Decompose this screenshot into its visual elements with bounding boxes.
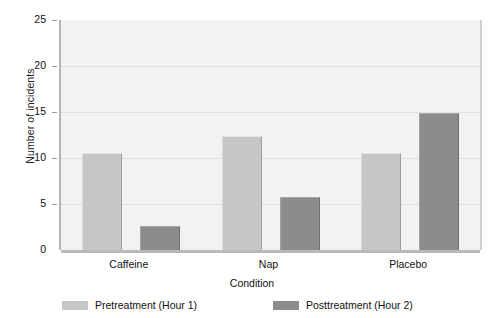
y-tick-label: 20 [18, 60, 46, 71]
x-axis-baseline [61, 250, 480, 253]
y-tick-label: 10 [18, 152, 46, 163]
x-tick-label: Placebo [339, 258, 477, 270]
bar [280, 197, 320, 250]
gridline [61, 158, 480, 159]
y-tick-mark [52, 158, 57, 159]
gridline [61, 112, 480, 113]
bar [222, 136, 262, 250]
y-tick-label: 0 [18, 244, 46, 255]
legend-label: Posttreatment (Hour 2) [306, 299, 413, 311]
legend-entry[interactable]: Pretreatment (Hour 1) [62, 297, 197, 313]
plot-area [59, 20, 480, 250]
legend-swatch [62, 301, 88, 310]
y-tick-label: 5 [18, 198, 46, 209]
plot-inner [61, 20, 480, 250]
chart-legend: Pretreatment (Hour 1)Posttreatment (Hour… [0, 297, 504, 318]
legend-entry[interactable]: Posttreatment (Hour 2) [273, 297, 413, 313]
y-tick-label: 15 [18, 106, 46, 117]
y-tick-mark [52, 112, 57, 113]
gridline [61, 204, 480, 205]
x-tick-label: Caffeine [60, 258, 198, 270]
y-tick-mark [52, 204, 57, 205]
legend-label: Pretreatment (Hour 1) [95, 299, 197, 311]
gridline [61, 66, 480, 67]
x-tick-label: Nap [200, 258, 338, 270]
bar [361, 153, 401, 250]
bar [140, 226, 180, 250]
y-tick-mark [52, 66, 57, 67]
plot-right-edge [480, 20, 482, 250]
bar-chart: Number of incidents 0510152025 CaffeineN… [0, 0, 504, 318]
legend-swatch [273, 301, 299, 310]
x-axis-title: Condition [0, 277, 504, 289]
y-tick-label: 25 [18, 14, 46, 25]
bar [82, 153, 122, 250]
y-tick-mark [52, 20, 57, 21]
bar [419, 113, 459, 250]
